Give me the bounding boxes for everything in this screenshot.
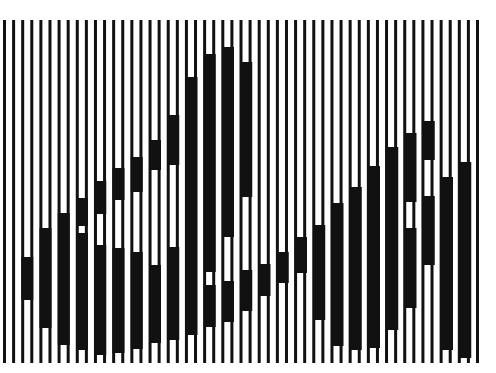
shape-band-segment (222, 47, 234, 237)
shape-band-segment (350, 187, 362, 350)
shape-band-segment (167, 115, 179, 165)
grating-line (421, 20, 424, 363)
optical-illusion-artwork (0, 0, 496, 373)
grating-line (30, 20, 33, 363)
shape-band-segment (21, 257, 33, 300)
shape-band-segment (240, 62, 252, 197)
shape-band-segment (423, 121, 435, 160)
grating-line (285, 20, 288, 363)
shape-band-segment (76, 198, 88, 226)
shape-band-segment (295, 237, 307, 273)
grating-line (258, 20, 261, 363)
grating-line (431, 20, 434, 363)
grating-line (276, 20, 279, 363)
shape-band-segment (113, 168, 125, 200)
shape-band-segment (131, 157, 143, 192)
shape-band-segment (167, 247, 179, 340)
shape-band-segment (149, 140, 161, 170)
shape-band-segment (76, 233, 88, 350)
shape-band-segment (368, 166, 380, 348)
shape-band-segment (259, 264, 271, 296)
shape-band-segment (386, 147, 398, 330)
shape-band-segment (204, 285, 216, 327)
grating-line (3, 20, 6, 363)
shape-band-segment (40, 228, 52, 328)
shape-band-segment (240, 270, 252, 311)
shape-band-segment (332, 203, 344, 346)
shape-band-segment (58, 213, 70, 345)
shape-band-segment (405, 228, 417, 308)
shape-band-segment (113, 248, 125, 353)
grating-line (12, 20, 15, 363)
shape-band-segment (459, 162, 471, 358)
grating-line (267, 20, 270, 363)
shape-band-segment (204, 54, 216, 272)
shape-band-segment (313, 225, 325, 320)
shape-band-segment (131, 252, 143, 349)
shape-band-segment (149, 265, 161, 343)
grating-line (294, 20, 297, 363)
shape-band-segment (186, 77, 198, 335)
grating-line (21, 20, 24, 363)
grating-line (303, 20, 306, 363)
shape-band-segment (405, 133, 417, 202)
grating-line (476, 20, 479, 363)
shape-band-segment (277, 252, 289, 283)
shape-band-segment (441, 177, 453, 350)
shape-band-segment (94, 245, 106, 355)
shape-band-segment (423, 196, 435, 265)
shape-band-segment (94, 181, 106, 214)
shape-band-segment (222, 281, 234, 322)
